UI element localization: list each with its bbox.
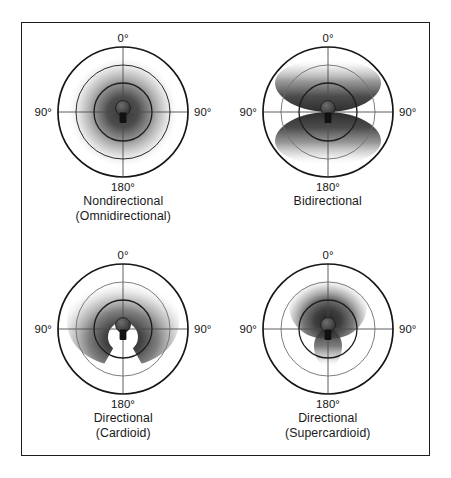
tick-label-0deg: 0° — [118, 249, 129, 261]
caption-line-1: Bidirectional — [294, 194, 362, 208]
tick-label-90deg-left: 90° — [35, 323, 53, 335]
polar-pattern-figure: 0° 180° 90° 90° Nondirectional (Omnidire… — [0, 0, 451, 478]
panel-caption-nondirectional: Nondirectional (Omnidirectional) — [21, 194, 226, 223]
tick-label-90deg-left: 90° — [35, 106, 53, 118]
caption-line-2: (Cardioid) — [21, 426, 226, 441]
panel-bidirectional: 0° 180° 90° 90° Bidirectional — [226, 22, 431, 239]
tick-label-90deg-right: 90° — [194, 106, 212, 118]
tick-label-90deg-right: 90° — [399, 323, 417, 335]
tick-label-90deg-right: 90° — [399, 106, 417, 118]
panel-caption-supercardioid: Directional (Supercardioid) — [226, 411, 431, 440]
tick-label-0deg: 0° — [118, 32, 129, 44]
tick-label-90deg-left: 90° — [239, 106, 257, 118]
polar-plot-nondirectional: 0° 180° 90° 90° — [30, 28, 216, 196]
tick-label-180deg: 180° — [316, 181, 340, 193]
panel-caption-bidirectional: Bidirectional — [226, 194, 431, 209]
tick-label-0deg: 0° — [322, 32, 333, 44]
tick-label-0deg: 0° — [322, 249, 333, 261]
panel-cardioid: 0° 180° 90° 90° Directional (Cardioid) — [21, 239, 226, 456]
tick-label-90deg-right: 90° — [194, 323, 212, 335]
caption-line-1: Directional — [298, 411, 357, 425]
caption-line-2: (Supercardioid) — [226, 426, 431, 441]
tick-label-180deg: 180° — [111, 398, 135, 410]
tick-label-180deg: 180° — [111, 181, 135, 193]
polar-plot-bidirectional: 0° 180° 90° 90° — [235, 28, 421, 196]
caption-line-1: Directional — [94, 411, 153, 425]
panel-nondirectional: 0° 180° 90° 90° Nondirectional (Omnidire… — [21, 22, 226, 239]
panel-grid: 0° 180° 90° 90° Nondirectional (Omnidire… — [21, 22, 430, 456]
panel-caption-cardioid: Directional (Cardioid) — [21, 411, 226, 440]
caption-line-1: Nondirectional — [83, 194, 163, 208]
polar-plot-cardioid: 0° 180° 90° 90° — [30, 245, 216, 413]
tick-label-90deg-left: 90° — [239, 323, 257, 335]
polar-plot-supercardioid: 0° 180° 90° 90° — [235, 245, 421, 413]
panel-supercardioid: 0° 180° 90° 90° Directional (Supercardio… — [226, 239, 431, 456]
tick-label-180deg: 180° — [316, 398, 340, 410]
caption-line-2: (Omnidirectional) — [21, 209, 226, 224]
